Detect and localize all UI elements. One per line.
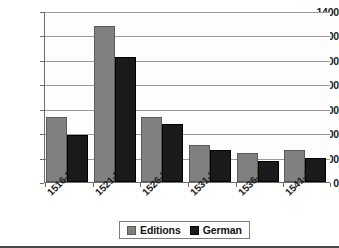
bar-german-1521-25 [115, 57, 136, 182]
legend-swatch-german [190, 226, 199, 235]
legend-label-editions: Editions [140, 224, 181, 236]
x-axis-tick-mark [236, 183, 237, 187]
legend-swatch-editions [127, 226, 136, 235]
x-axis-tick-mark [330, 183, 331, 187]
bar-editions-1521-25 [94, 26, 115, 182]
bar-group [141, 12, 183, 182]
x-axis-tick-mark [188, 183, 189, 187]
legend-item-german: German [190, 224, 242, 236]
x-axis-tick-mark [45, 183, 46, 187]
chart-legend: Editions German [119, 221, 250, 239]
bar-group [46, 12, 88, 182]
bar-group [284, 12, 326, 182]
x-axis-tick-mark [93, 183, 94, 187]
y-axis-tick-mark [40, 183, 44, 184]
bar-group [237, 12, 279, 182]
plot-area [44, 12, 330, 183]
bar-group [189, 12, 231, 182]
bar-group [94, 12, 136, 182]
bar-chart: 0200400600800100012001400 1516-201521-25… [0, 0, 339, 248]
x-axis-tick-mark [140, 183, 141, 187]
legend-item-editions: Editions [127, 224, 181, 236]
legend-label-german: German [203, 224, 242, 236]
x-axis-tick-mark [283, 183, 284, 187]
